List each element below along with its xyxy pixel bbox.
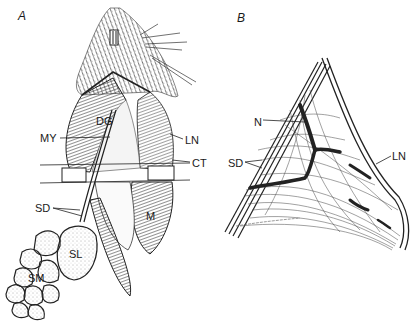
label-my: MY xyxy=(40,132,57,144)
label-ct: CT xyxy=(192,157,207,169)
panel-label-a: A xyxy=(17,9,26,23)
label-n: N xyxy=(254,116,262,128)
panel-b-drawing xyxy=(225,58,409,250)
head-fur xyxy=(76,8,178,97)
leader-lines-b xyxy=(245,120,391,168)
figure-canvas: A DG MY LN CT SD M SL SM xyxy=(0,0,417,327)
label-ln-b: LN xyxy=(392,150,406,162)
label-sd-b: SD xyxy=(228,157,243,169)
label-dg: DG xyxy=(96,115,113,127)
label-sd: SD xyxy=(35,202,50,214)
label-sm: SM xyxy=(28,272,45,284)
panel-label-b: B xyxy=(237,11,245,25)
label-m: M xyxy=(146,210,155,222)
label-sl: SL xyxy=(69,248,82,260)
label-ln: LN xyxy=(185,134,199,146)
mouth xyxy=(110,30,118,45)
